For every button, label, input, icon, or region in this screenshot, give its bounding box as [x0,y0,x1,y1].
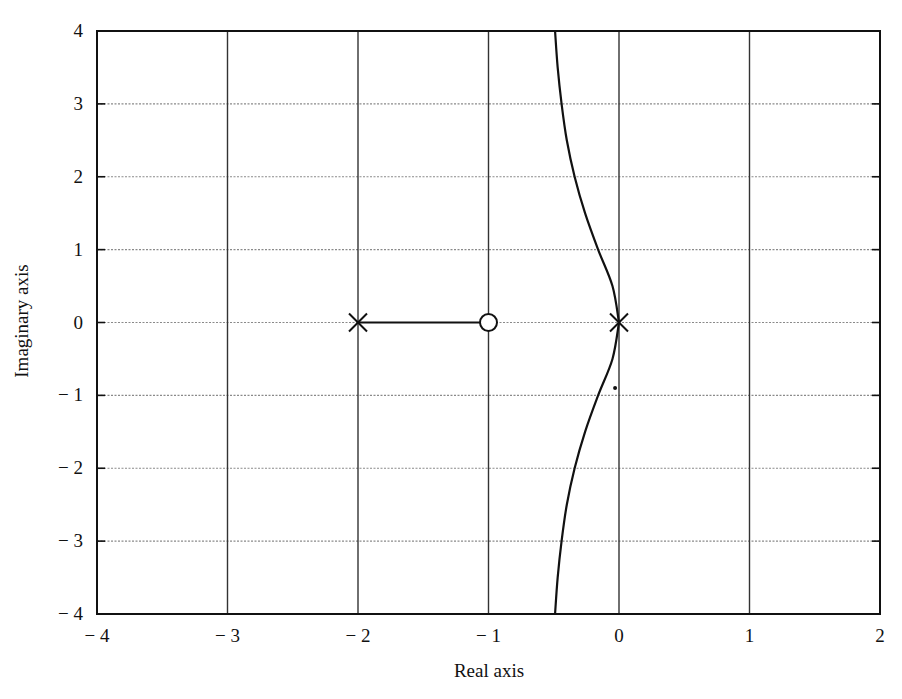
x-tick-label: 0 [614,625,624,646]
x-tick-label: 2 [875,625,885,646]
y-axis-label: Imaginary axis [11,264,33,377]
y-tick-label: − 4 [58,603,83,624]
root-locus-figure: − 4− 3− 2− 1012− 4− 3− 2− 101234 Imagina… [0,0,902,699]
x-tick-label: − 1 [476,625,501,646]
y-tick-label: 1 [74,239,84,260]
x-tick-label: − 4 [85,625,110,646]
y-tick-label: 2 [74,166,84,187]
stray-dot [613,386,617,390]
y-tick-label: 0 [74,312,84,333]
y-tick-label: − 3 [58,530,83,551]
x-tick-label: 1 [745,625,755,646]
y-tick-label: 4 [74,20,84,41]
x-tick-label: − 2 [346,625,371,646]
x-axis-label: Real axis [454,660,524,682]
x-tick-label: − 3 [215,625,240,646]
plot-area: − 4− 3− 2− 1012− 4− 3− 2− 101234 [0,0,902,699]
y-tick-label: 3 [74,93,84,114]
y-tick-label: − 1 [58,384,83,405]
zero-circle-icon [480,314,497,331]
y-tick-label: − 2 [58,457,83,478]
